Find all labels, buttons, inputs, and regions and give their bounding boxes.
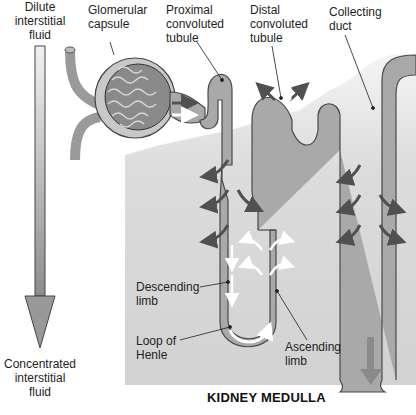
glomerular-capsule: [95, 58, 175, 138]
label-dilute-interstitial-fluid: Dilute interstitial fluid: [2, 0, 78, 42]
gradient-arrow: [25, 46, 55, 348]
blood-vessels: [65, 47, 100, 160]
kidney-nephron-diagram: Dilute interstitial fluid Glomerular cap…: [0, 0, 416, 415]
label-collecting-duct: Collecting duct: [329, 5, 382, 33]
distal-arrows: [262, 74, 303, 100]
label-descending-limb: Descending limb: [136, 280, 199, 308]
label-concentrated-interstitial-fluid: Concentrated interstitial fluid: [0, 357, 80, 399]
label-glomerular-capsule: Glomerular capsule: [88, 3, 147, 31]
label-distal-convoluted-tubule: Distal convoluted tubule: [250, 3, 308, 45]
region-title-kidney-medulla: KIDNEY MEDULLA: [207, 390, 326, 405]
label-loop-of-henle: Loop of Henle: [136, 334, 176, 362]
label-ascending-limb: Ascending limb: [285, 340, 341, 368]
diagram-svg: [0, 0, 416, 415]
label-proximal-convoluted-tubule: Proximal convoluted tubule: [166, 3, 224, 45]
